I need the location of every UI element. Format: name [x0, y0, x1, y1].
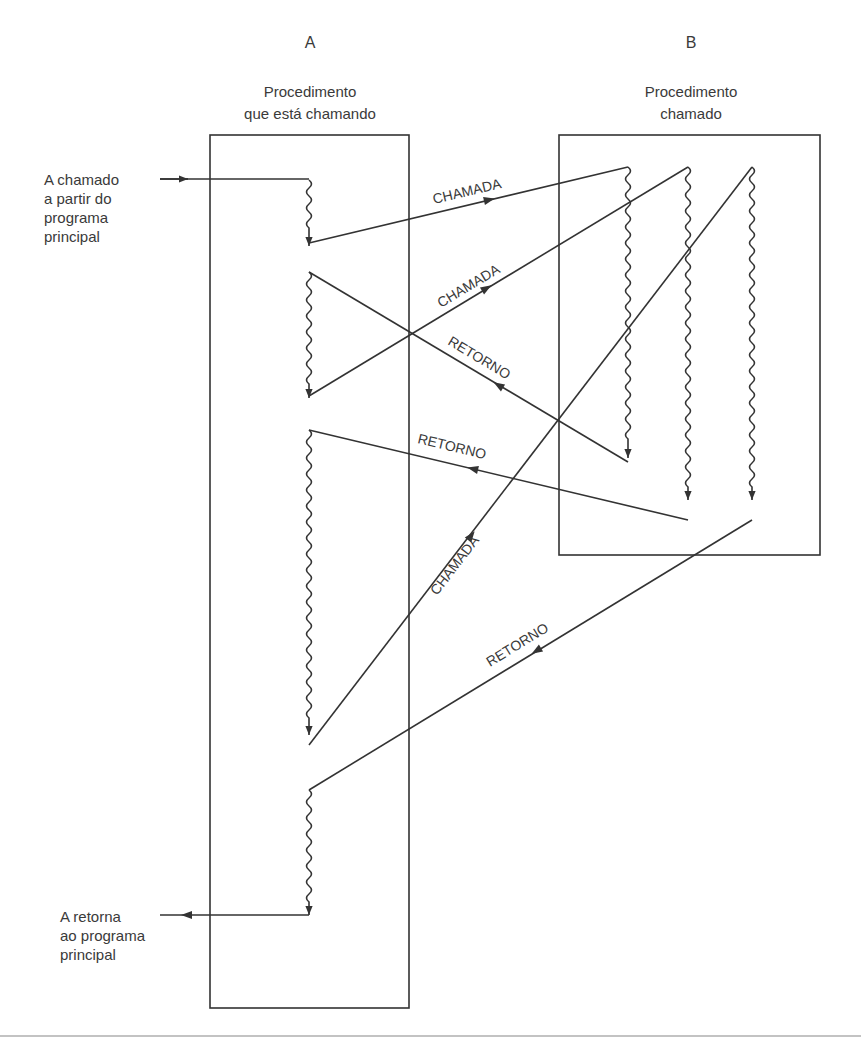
execution-wave-a3: [307, 430, 312, 735]
call-line-3: [309, 167, 752, 745]
return-label-3: RETORNO: [483, 620, 551, 670]
execution-wave-a4: [307, 790, 312, 915]
execution-wave-a1: [307, 180, 312, 246]
call-label-3: CHAMADA: [427, 532, 483, 598]
return-line-3: [309, 520, 752, 790]
execution-wave-b1: [626, 167, 631, 458]
execution-wave-b3: [750, 167, 755, 500]
return-line-2: [309, 430, 688, 520]
execution-wave-a2: [307, 272, 312, 398]
call-label-1: CHAMADA: [431, 175, 503, 207]
return-arrow-icon-2: [466, 464, 479, 474]
exit-arrow-icon: [181, 911, 192, 919]
return-label-1: RETORNO: [445, 333, 513, 383]
call-return-diagram: CHAMADA CHAMADA RETORNO RETORNO CHAMADA …: [0, 0, 861, 1060]
execution-wave-b2: [686, 167, 691, 500]
